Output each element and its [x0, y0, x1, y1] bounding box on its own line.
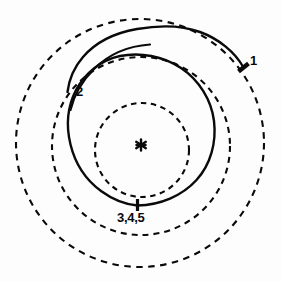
orbital-trajectory-figure: 1 2 3,4,5 — [0, 0, 282, 281]
annotation-label-345: 3,4,5 — [117, 211, 144, 224]
tick-marker-point-1 — [239, 64, 249, 72]
trajectory-plot-svg — [0, 0, 282, 281]
transfer-trajectory-inner — [68, 55, 215, 206]
annotation-label-2: 2 — [76, 85, 83, 98]
annotation-label-1: 1 — [250, 54, 257, 67]
asterisk-marker-central-body — [136, 140, 146, 151]
